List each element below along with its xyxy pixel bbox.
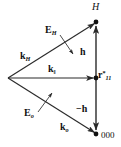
node-label-r11-subscript: 11 <box>106 74 112 81</box>
segment-label-minus-h: −h <box>76 104 87 114</box>
vector-label-E-o: Eo <box>24 108 34 118</box>
vector-label-k-o: ko <box>60 122 69 132</box>
node-label-000: 000 <box>101 131 115 140</box>
node-dot-H <box>94 20 99 25</box>
vector-label-E-o-subscript: o <box>31 112 34 119</box>
vector-label-E-H-subscript: H <box>52 29 57 36</box>
segment-label-minus-h-text: −h <box>76 103 87 114</box>
vector-label-E-H: EH <box>45 25 57 35</box>
node-label-000-text: 000 <box>101 130 115 140</box>
wave-vector-group <box>8 24 95 133</box>
node-label-H: H <box>92 2 99 12</box>
node-label-H-text: H <box>92 1 99 12</box>
segment-label-h: h <box>80 47 86 57</box>
node-label-r11-star: r*11 <box>98 70 111 80</box>
vector-label-E-o-symbol: E <box>24 107 31 118</box>
segment-label-h-text: h <box>80 46 86 57</box>
diffraction-vector-diagram: H EH kH h k‖ r*11 −h Eo ko 000 <box>0 0 121 147</box>
vector-label-k-o-subscript: o <box>66 126 69 133</box>
vector-label-k-parallel: k‖ <box>48 64 56 74</box>
vector-label-k-H-subscript: H <box>26 55 31 62</box>
node-dot-000 <box>94 132 99 137</box>
vector-label-k-parallel-subscript: ‖ <box>54 68 56 75</box>
vector-label-E-H-symbol: E <box>45 24 52 35</box>
vector-E-o-line <box>38 93 52 112</box>
vector-label-k-H: kH <box>20 51 30 61</box>
